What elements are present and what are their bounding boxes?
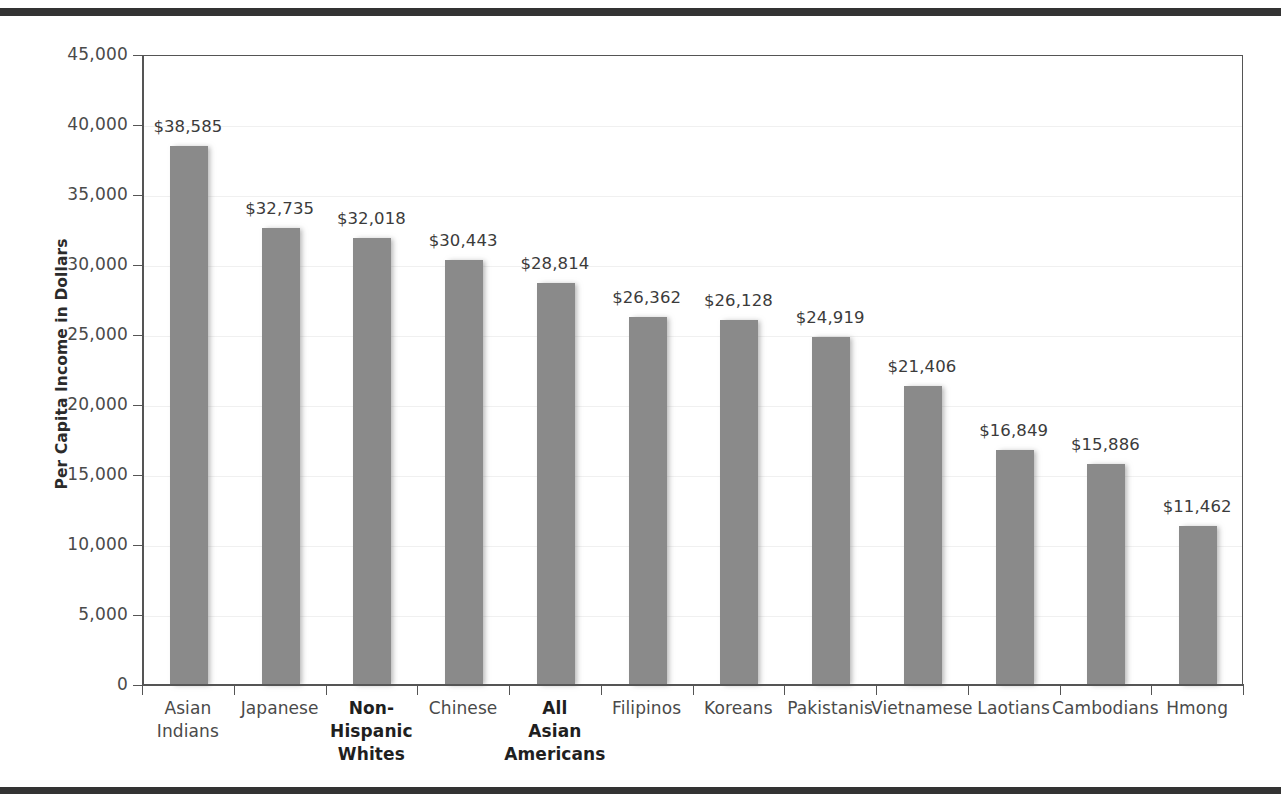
x-axis-tick — [876, 684, 877, 695]
gridline — [143, 616, 1242, 617]
x-axis-tick — [1151, 684, 1152, 695]
y-axis-tick — [133, 55, 142, 56]
bar[interactable] — [720, 320, 758, 686]
bar-value-label: $21,406 — [862, 357, 982, 376]
bar-value-label: $28,814 — [495, 254, 615, 273]
chart-page: 45,00040,00035,00030,00025,00020,00015,0… — [0, 0, 1281, 802]
bar[interactable] — [629, 317, 667, 686]
bar-value-label: $30,443 — [403, 231, 523, 250]
gridlines — [143, 56, 1242, 684]
gridline — [143, 546, 1242, 547]
x-axis-tick — [142, 684, 143, 695]
y-axis-tick — [133, 265, 142, 266]
bar[interactable] — [996, 450, 1034, 686]
gridline — [143, 336, 1242, 337]
bottom-rule — [0, 787, 1281, 794]
gridline — [143, 126, 1242, 127]
x-axis-tick — [509, 684, 510, 695]
y-axis-tick — [133, 475, 142, 476]
y-axis-tick-label: 5,000 — [8, 604, 128, 624]
bar[interactable] — [353, 238, 391, 686]
x-axis-tick — [326, 684, 327, 695]
plot-area — [142, 55, 1243, 685]
x-axis-tick — [784, 684, 785, 695]
x-axis-tick — [417, 684, 418, 695]
x-axis-tick — [1060, 684, 1061, 695]
gridline — [143, 406, 1242, 407]
x-axis-tick — [1243, 684, 1244, 695]
x-axis-tick — [968, 684, 969, 695]
x-axis-tick — [693, 684, 694, 695]
gridline — [143, 476, 1242, 477]
y-axis-tick-label: 10,000 — [8, 534, 128, 554]
bar[interactable] — [537, 283, 575, 686]
bar[interactable] — [262, 228, 300, 686]
bar[interactable] — [1179, 526, 1217, 686]
bar[interactable] — [445, 260, 483, 686]
y-axis-title: Per Capita Income in Dollars — [53, 214, 71, 514]
bar-value-label: $24,919 — [770, 308, 890, 327]
bar[interactable] — [1087, 464, 1125, 686]
y-axis-tick — [133, 405, 142, 406]
bar[interactable] — [904, 386, 942, 686]
y-axis-tick-label: 35,000 — [8, 184, 128, 204]
gridline — [143, 196, 1242, 197]
x-axis-tick — [234, 684, 235, 695]
y-axis-tick — [133, 545, 142, 546]
y-axis-line — [142, 55, 144, 686]
bar-value-label: $38,585 — [128, 117, 248, 136]
bar-value-label: $32,018 — [311, 209, 431, 228]
y-axis-tick — [133, 195, 142, 196]
x-axis-category-label: Hmong — [1142, 697, 1252, 720]
y-axis-tick — [133, 615, 142, 616]
y-axis-tick-label: 45,000 — [8, 44, 128, 64]
bar[interactable] — [812, 337, 850, 686]
bar-value-label: $11,462 — [1137, 497, 1257, 516]
top-rule — [0, 8, 1281, 16]
y-axis-tick — [133, 335, 142, 336]
x-axis-tick — [601, 684, 602, 695]
bar-value-label: $15,886 — [1045, 435, 1165, 454]
y-axis-tick — [133, 685, 142, 686]
gridline — [143, 266, 1242, 267]
bar[interactable] — [170, 146, 208, 686]
y-axis-tick-label: 0 — [8, 674, 128, 694]
y-axis-tick-label: 40,000 — [8, 114, 128, 134]
